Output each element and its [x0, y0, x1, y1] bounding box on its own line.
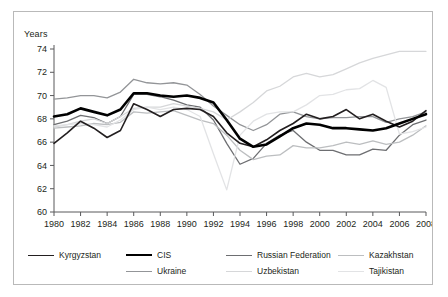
svg-text:1996: 1996: [257, 219, 277, 229]
svg-text:1994: 1994: [230, 219, 250, 229]
legend-item-ukraine[interactable]: Ukraine: [126, 266, 226, 276]
legend-item-cis[interactable]: CIS: [126, 250, 226, 260]
legend-label-cis: CIS: [157, 250, 171, 260]
legend-row-2: Ukraine Uzbekistan Tajikistan: [14, 263, 432, 279]
svg-text:72: 72: [37, 67, 47, 77]
legend-item-kazakhstan[interactable]: Kazakhstan: [338, 250, 432, 260]
svg-text:2006: 2006: [389, 219, 409, 229]
y-axis-ticks: 6062646668707274: [37, 44, 54, 217]
plot-area: 6062646668707274 19801982198419861988199…: [14, 12, 432, 248]
svg-text:1986: 1986: [124, 219, 144, 229]
svg-text:1982: 1982: [71, 219, 91, 229]
svg-text:62: 62: [37, 184, 47, 194]
series-lines: [54, 51, 426, 190]
legend-label-tajikistan: Tajikistan: [369, 266, 404, 276]
line-chart-svg: 6062646668707274 19801982198419861988199…: [14, 12, 432, 248]
legend-swatch-russian-federation: [226, 255, 252, 256]
chart-card: Years 6062646668707274 19801982198419861…: [13, 11, 433, 285]
chart-legend: Kyrgyzstan CIS Russian Federation Kazakh…: [14, 244, 432, 284]
svg-text:1984: 1984: [97, 219, 117, 229]
svg-text:2004: 2004: [363, 219, 383, 229]
svg-text:66: 66: [37, 137, 47, 147]
svg-text:60: 60: [37, 207, 47, 217]
svg-text:2008: 2008: [416, 219, 432, 229]
series-line-cis: [54, 93, 426, 147]
legend-item-russian-federation[interactable]: Russian Federation: [226, 250, 338, 260]
legend-swatch-ukraine: [126, 271, 152, 272]
legend-swatch-uzbekistan: [226, 271, 252, 272]
x-axis-ticks: 1980198219841986198819901992199419961998…: [44, 212, 432, 229]
legend-item-uzbekistan[interactable]: Uzbekistan: [226, 266, 338, 276]
svg-text:2002: 2002: [336, 219, 356, 229]
legend-swatch-tajikistan: [338, 271, 364, 272]
legend-item-tajikistan[interactable]: Tajikistan: [338, 266, 432, 276]
svg-text:68: 68: [37, 114, 47, 124]
legend-swatch-kazakhstan: [338, 255, 364, 256]
svg-text:2000: 2000: [310, 219, 330, 229]
legend-swatch-kyrgyzstan: [28, 255, 54, 256]
svg-text:1998: 1998: [283, 219, 303, 229]
legend-label-ukraine: Ukraine: [157, 266, 186, 276]
svg-text:70: 70: [37, 91, 47, 101]
svg-text:74: 74: [37, 44, 47, 54]
svg-text:64: 64: [37, 161, 47, 171]
legend-label-russian-federation: Russian Federation: [257, 250, 331, 260]
legend-item-kyrgyzstan[interactable]: Kyrgyzstan: [14, 250, 126, 260]
svg-text:1980: 1980: [44, 219, 64, 229]
svg-text:1992: 1992: [203, 219, 223, 229]
legend-swatch-cis: [126, 254, 152, 256]
legend-row-1: Kyrgyzstan CIS Russian Federation Kazakh…: [14, 247, 432, 263]
legend-label-kazakhstan: Kazakhstan: [369, 250, 413, 260]
svg-text:1990: 1990: [177, 219, 197, 229]
svg-text:1988: 1988: [150, 219, 170, 229]
legend-label-uzbekistan: Uzbekistan: [257, 266, 299, 276]
legend-label-kyrgyzstan: Kyrgyzstan: [59, 250, 101, 260]
